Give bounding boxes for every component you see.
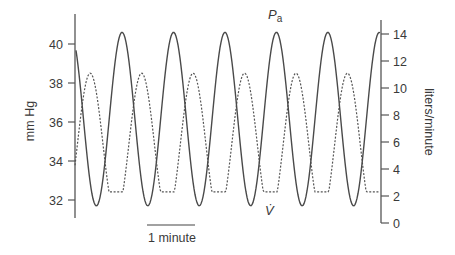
right-axis-ticks: 02468101214 [381, 28, 407, 231]
left-tick-label: 38 [49, 77, 63, 91]
right-tick-label: 12 [393, 55, 407, 69]
right-axis: 02468101214 liters/minute [381, 20, 436, 231]
left-tick-label: 34 [49, 155, 63, 169]
scale-bar-label: 1 minute [148, 231, 196, 245]
time-scale-bar: 1 minute [147, 225, 196, 245]
periodic-breathing-chart: 3234363840 mm Hg 02468101214 liters/minu… [0, 0, 455, 255]
left-tick-label: 40 [49, 38, 63, 52]
pa-series-label: Pa [268, 7, 283, 24]
arterial-pressure-solid-line [76, 32, 380, 206]
right-tick-label: 8 [393, 109, 400, 123]
right-tick-label: 4 [393, 163, 400, 177]
vdot-series-label: V̇ [265, 203, 275, 218]
right-tick-label: 6 [393, 136, 400, 150]
left-tick-label: 36 [49, 116, 63, 130]
left-axis: 3234363840 mm Hg [23, 14, 75, 218]
left-axis-title: mm Hg [23, 101, 37, 141]
right-tick-label: 0 [393, 217, 400, 231]
ventilation-dashed-line [75, 73, 380, 192]
right-axis-title: liters/minute [422, 88, 436, 155]
left-tick-label: 32 [49, 194, 63, 208]
left-axis-ticks: 3234363840 [49, 38, 75, 208]
right-tick-label: 10 [393, 82, 407, 96]
right-tick-label: 2 [393, 190, 400, 204]
right-tick-label: 14 [393, 28, 407, 42]
